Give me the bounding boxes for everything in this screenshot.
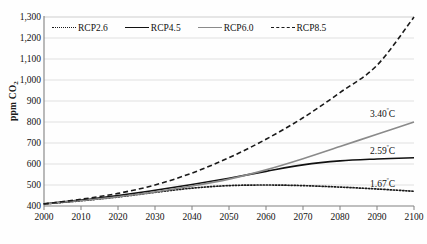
legend-swatch-icon	[125, 24, 149, 32]
legend-item-rcp8-5[interactable]: RCP8.5	[271, 23, 327, 33]
legend-item-rcp4-5[interactable]: RCP4.5	[125, 23, 181, 33]
legend-label: RCP8.5	[297, 23, 327, 33]
legend-swatch-icon	[271, 24, 295, 32]
annotation-unit: C	[389, 179, 395, 189]
legend-label: RCP6.0	[224, 23, 254, 33]
series-line-rcp8-5	[44, 17, 414, 204]
plot-area	[0, 0, 427, 244]
series-line-rcp6-0	[44, 122, 414, 204]
legend-swatch-icon	[198, 24, 222, 32]
legend-item-rcp2-6[interactable]: RCP2.6	[52, 23, 108, 33]
temperature-annotation-rcp4-5: 2.59ºC	[370, 146, 395, 156]
annotation-value: 1.67	[370, 179, 387, 189]
series-line-rcp2-6	[44, 185, 414, 204]
annotation-value: 2.59	[370, 146, 387, 156]
chart-legend: RCP2.6RCP4.5RCP6.0RCP8.5	[52, 23, 326, 33]
legend-label: RCP2.6	[78, 23, 108, 33]
legend-label: RCP4.5	[151, 23, 181, 33]
legend-item-rcp6-0[interactable]: RCP6.0	[198, 23, 254, 33]
co2-concentration-chart: ppm CO2 4005006007008009001,0001,1001,20…	[0, 0, 427, 244]
temperature-annotation-rcp2-6: 1.67ºC	[370, 179, 395, 189]
annotation-value: 3.40	[370, 109, 387, 119]
annotation-unit: C	[389, 146, 395, 156]
legend-swatch-icon	[52, 24, 76, 32]
series-line-rcp4-5	[44, 158, 414, 204]
temperature-annotation-rcp6-0: 3.40ºC	[370, 109, 395, 119]
annotation-unit: C	[389, 109, 395, 119]
